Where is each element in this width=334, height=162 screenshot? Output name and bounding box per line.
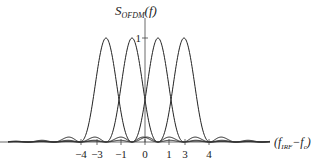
x-tick-label: 0 — [142, 148, 148, 160]
subcarrier-3-curve — [8, 38, 270, 142]
x-tick-label: −3 — [91, 148, 103, 160]
subcarrier-4-curve — [8, 38, 270, 142]
x-tick-label: 4 — [206, 148, 212, 160]
x-tick-label: 1 — [166, 148, 172, 160]
subcarrier-curves — [8, 38, 270, 142]
subcarrier-2-curve — [8, 38, 270, 142]
x-axis-label: (fIRF−fc) — [274, 135, 311, 151]
ofdm-spectrum-chart: 1 −4−3−10134 SOFDM(f) (fIRF−fc) — [0, 0, 334, 162]
y-axis-label: SOFDM(f) — [115, 3, 157, 20]
x-tick-label: 3 — [182, 148, 188, 160]
x-tick-label: −4 — [75, 148, 87, 160]
subcarrier-1-curve — [8, 38, 270, 142]
y-tick-label: 1 — [136, 32, 142, 44]
x-tick-label: −1 — [115, 148, 127, 160]
